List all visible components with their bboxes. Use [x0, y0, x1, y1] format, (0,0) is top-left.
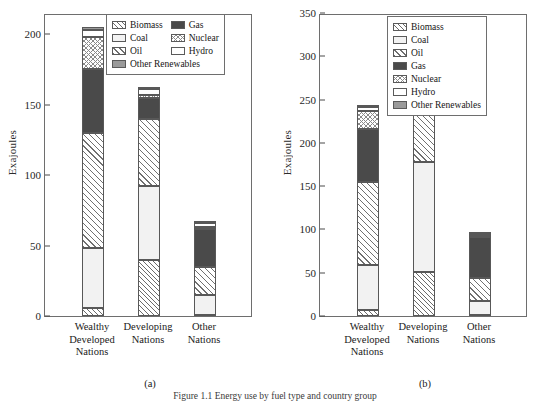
- y-tick-mark: [320, 316, 325, 317]
- bar-segment-biomass[interactable]: [82, 308, 104, 316]
- bar-segment-gas[interactable]: [138, 98, 160, 119]
- y-tick-mark: [45, 316, 50, 317]
- category-label-other-nations: OtherNations: [188, 321, 221, 346]
- y-tick-mark: [320, 186, 325, 187]
- category-label-line: Developed: [69, 334, 114, 347]
- bar-segment-coal[interactable]: [138, 186, 160, 259]
- category-label-line: Nations: [188, 334, 221, 347]
- legend-label: Other Renewables: [411, 99, 481, 111]
- y-axis-label-b: Exajoules: [281, 130, 293, 175]
- bar-segment-nuclear[interactable]: [357, 111, 379, 129]
- legend-item-biomass[interactable]: Biomass: [393, 21, 481, 33]
- category-label-line: Developed: [344, 334, 389, 347]
- legend-label: Nuclear: [411, 73, 441, 85]
- legend-swatch-biomass: [393, 23, 407, 31]
- bar-segment-coal[interactable]: [82, 248, 104, 307]
- legend-label: Gas: [189, 19, 204, 31]
- legend-item-biomass[interactable]: Biomass: [112, 19, 163, 31]
- bar-segment-biomass[interactable]: [357, 310, 379, 316]
- category-label-line: Nations: [463, 334, 496, 347]
- y-tick-mark: [45, 34, 50, 35]
- bar-segment-oil[interactable]: [194, 267, 216, 295]
- bar-segment-hydro[interactable]: [138, 89, 160, 95]
- bar-segment-other-renewables[interactable]: [194, 221, 216, 223]
- category-label-line: Nations: [124, 334, 173, 347]
- bar-segment-coal[interactable]: [469, 301, 491, 315]
- legend-label: Gas: [411, 60, 426, 72]
- bar-segment-hydro[interactable]: [469, 234, 491, 237]
- panel-caption-a: (a): [144, 378, 156, 389]
- legend-item-oil[interactable]: Oil: [112, 45, 163, 57]
- bar-segment-hydro[interactable]: [82, 30, 104, 37]
- bar-segment-oil[interactable]: [82, 133, 104, 249]
- category-label-developing-nations: DevelopingNations: [124, 321, 173, 346]
- bar-segment-oil[interactable]: [469, 278, 491, 301]
- category-label-line: Nations: [399, 334, 448, 347]
- legend-swatch-hydro: [393, 88, 407, 96]
- legend-item-coal[interactable]: Coal: [112, 32, 163, 44]
- category-label-wealthy-developed-nations: WealthyDevelopedNations: [69, 321, 114, 359]
- legend-b: BiomassCoalOilGasNuclearHydroOther Renew…: [387, 16, 487, 116]
- legend-item-nuclear[interactable]: Nuclear: [393, 73, 481, 85]
- y-tick-label: 350: [300, 7, 321, 19]
- legend-label: Oil: [411, 47, 423, 59]
- legend-label: Coal: [411, 34, 429, 46]
- category-label-wealthy-developed-nations: WealthyDevelopedNations: [344, 321, 389, 359]
- category-label-line: Other: [188, 321, 221, 334]
- bar-segment-biomass[interactable]: [413, 272, 435, 316]
- bar-segment-other-renewables[interactable]: [357, 105, 379, 107]
- y-tick-label: 100: [300, 223, 321, 235]
- bar-segment-other-renewables[interactable]: [82, 27, 104, 30]
- bar-segment-gas[interactable]: [357, 129, 379, 182]
- y-tick-label: 150: [300, 180, 321, 192]
- y-tick-label: 50: [30, 240, 45, 252]
- bar-segment-coal[interactable]: [194, 295, 216, 315]
- bar-segment-other-renewables[interactable]: [138, 87, 160, 89]
- legend-swatch-coal: [112, 34, 126, 42]
- legend-item-coal[interactable]: Coal: [393, 34, 481, 46]
- bar-segment-oil[interactable]: [357, 182, 379, 265]
- y-axis-label-a: Exajoules: [6, 130, 18, 175]
- y-tick-mark: [45, 104, 50, 105]
- bar-segment-biomass[interactable]: [138, 260, 160, 316]
- bar-segment-nuclear[interactable]: [138, 95, 160, 98]
- legend-item-nuclear[interactable]: Nuclear: [171, 32, 219, 44]
- y-tick-mark: [320, 56, 325, 57]
- panel-caption-b: (b): [419, 378, 431, 389]
- bar-segment-coal[interactable]: [413, 162, 435, 272]
- y-tick-label: 150: [25, 99, 46, 111]
- legend-item-hydro[interactable]: Hydro: [393, 86, 481, 98]
- bar-wealthy-developed-nations[interactable]: [82, 15, 104, 316]
- legend-swatch-gas: [171, 21, 185, 29]
- y-tick-mark: [320, 272, 325, 273]
- y-tick-label: 250: [300, 94, 321, 106]
- legend-swatch-biomass: [112, 21, 126, 29]
- legend-swatch-nuclear: [393, 75, 407, 83]
- bar-segment-oil[interactable]: [138, 119, 160, 187]
- legend-item-other-renewables[interactable]: Other Renewables: [393, 99, 481, 111]
- bar-segment-nuclear[interactable]: [82, 37, 104, 69]
- legend-item-other-renewables[interactable]: Other Renewables: [112, 58, 219, 70]
- bar-segment-hydro[interactable]: [194, 223, 216, 227]
- y-tick-mark: [45, 245, 50, 246]
- legend-swatch-oil: [112, 47, 126, 55]
- category-label-line: Developing: [124, 321, 173, 334]
- y-tick-label: 100: [25, 169, 46, 181]
- legend-label: Other Renewables: [130, 58, 200, 70]
- bar-segment-gas[interactable]: [82, 69, 104, 132]
- bar-segment-gas[interactable]: [469, 237, 491, 278]
- bar-segment-hydro[interactable]: [357, 107, 379, 111]
- bar-segment-other-renewables[interactable]: [469, 232, 491, 234]
- legend-label: Nuclear: [189, 32, 219, 44]
- bar-wealthy-developed-nations[interactable]: [357, 15, 379, 316]
- legend-swatch-other-renewables: [112, 60, 126, 68]
- bar-segment-coal[interactable]: [357, 265, 379, 310]
- legend-item-oil[interactable]: Oil: [393, 47, 481, 59]
- y-tick-mark: [320, 229, 325, 230]
- category-label-line: Developing: [399, 321, 448, 334]
- chart-panel-b: Exajoules 050100150200250300350 BiomassC…: [275, 0, 550, 398]
- legend-item-gas[interactable]: Gas: [393, 60, 481, 72]
- bar-segment-gas[interactable]: [194, 229, 216, 267]
- legend-item-hydro[interactable]: Hydro: [171, 45, 219, 57]
- legend-item-gas[interactable]: Gas: [171, 19, 219, 31]
